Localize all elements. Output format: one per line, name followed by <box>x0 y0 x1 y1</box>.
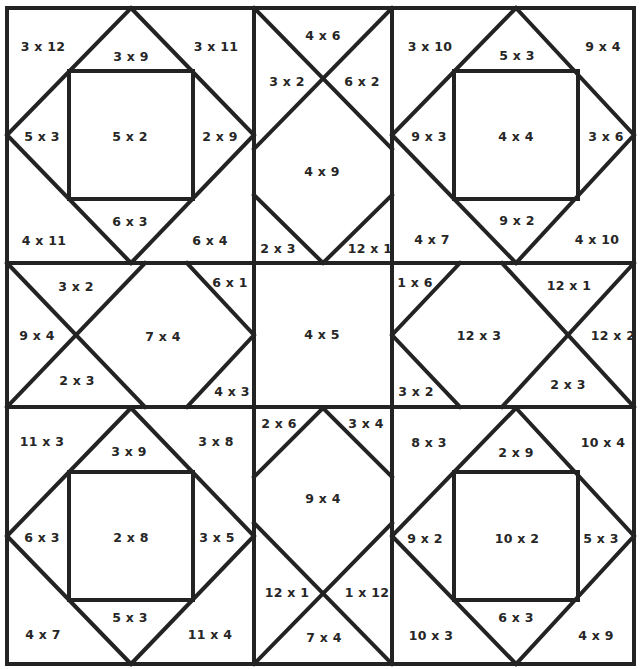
bottom-right-tri-top: 2 x 9 <box>498 445 534 460</box>
middle-left-bottom: 2 x 3 <box>59 373 95 388</box>
top-middle-left: 3 x 2 <box>269 74 305 89</box>
bottom-right-tri-left: 9 x 2 <box>407 531 443 546</box>
top-right-tri-left: 9 x 3 <box>411 129 447 144</box>
top-left-corner-bl: 4 x 11 <box>22 233 67 248</box>
top-right-corner-tl: 3 x 10 <box>408 39 453 54</box>
top-middle-right: 6 x 2 <box>344 74 380 89</box>
bottom-right-tri-bottom: 6 x 3 <box>498 610 534 625</box>
top-left-tri-top: 3 x 9 <box>113 49 149 64</box>
bottom-left-tri-left: 6 x 3 <box>24 530 60 545</box>
middle-right-right: 12 x 2 <box>591 328 636 343</box>
bottom-left-corner-tr: 3 x 8 <box>198 434 234 449</box>
top-left-tri-left: 5 x 3 <box>24 129 60 144</box>
middle-left-left: 9 x 4 <box>19 328 55 343</box>
top-middle-bottom-left: 2 x 3 <box>260 241 296 256</box>
bottom-left-corner-br: 11 x 4 <box>188 627 233 642</box>
bottom-left-tri-right: 3 x 5 <box>199 530 235 545</box>
top-left-tri-right: 2 x 9 <box>202 129 238 144</box>
top-left-corner-tl: 3 x 12 <box>21 39 66 54</box>
bottom-right-corner-tr: 10 x 4 <box>581 435 626 450</box>
bottom-left-tri-top: 3 x 9 <box>111 444 147 459</box>
top-right-corner-br: 4 x 10 <box>575 232 620 247</box>
bottom-left-corner-bl: 4 x 7 <box>25 627 61 642</box>
top-right-tri-bottom: 9 x 2 <box>499 213 535 228</box>
bottom-right-corner-bl: 10 x 3 <box>409 628 454 643</box>
top-right-tri-right: 3 x 6 <box>588 129 624 144</box>
bottom-left-center: 2 x 8 <box>113 530 149 545</box>
middle-left-top: 3 x 2 <box>58 279 94 294</box>
top-left-corner-br: 6 x 4 <box>192 233 228 248</box>
bottom-right-corner-tl: 8 x 3 <box>411 435 447 450</box>
middle-right-top: 12 x 1 <box>547 278 592 293</box>
bottom-left-corner-tl: 11 x 3 <box>20 434 65 449</box>
top-right-tri-top: 5 x 3 <box>499 48 535 63</box>
middle-left-top-right: 6 x 1 <box>212 275 248 290</box>
bottom-middle-top-left: 2 x 6 <box>261 416 297 431</box>
middle-right-bottom-left: 3 x 2 <box>398 384 434 399</box>
middle-left-bottom-right: 4 x 3 <box>214 384 250 399</box>
top-right-center: 4 x 4 <box>498 129 534 144</box>
bottom-right-center: 10 x 2 <box>495 531 540 546</box>
top-middle-center: 4 x 9 <box>304 164 340 179</box>
middle-right-top-left: 1 x 6 <box>397 275 433 290</box>
middle-right-center: 12 x 3 <box>457 328 502 343</box>
top-middle-bottom-right: 12 x 1 <box>348 241 393 256</box>
middle-center-center: 4 x 5 <box>304 327 340 342</box>
bottom-middle-right: 1 x 12 <box>345 585 390 600</box>
bottom-middle-center: 9 x 4 <box>305 491 341 506</box>
bottom-middle-bottom: 7 x 4 <box>306 630 342 645</box>
middle-right-bottom: 2 x 3 <box>550 377 586 392</box>
top-left-corner-tr: 3 x 11 <box>194 39 239 54</box>
top-left-tri-bottom: 6 x 3 <box>112 214 148 229</box>
bottom-middle-top-right: 3 x 4 <box>348 416 384 431</box>
bottom-right-tri-right: 5 x 3 <box>583 531 619 546</box>
bottom-right-corner-br: 4 x 9 <box>578 628 614 643</box>
middle-left-center: 7 x 4 <box>145 329 181 344</box>
bottom-left-tri-bottom: 5 x 3 <box>112 610 148 625</box>
top-right-corner-tr: 9 x 4 <box>585 39 621 54</box>
top-middle-top: 4 x 6 <box>305 28 341 43</box>
top-right-corner-bl: 4 x 7 <box>414 232 450 247</box>
bottom-middle-left: 12 x 1 <box>265 585 310 600</box>
top-left-center: 5 x 2 <box>112 129 148 144</box>
